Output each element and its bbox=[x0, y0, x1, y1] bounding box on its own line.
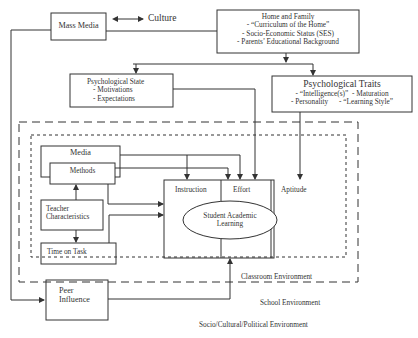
time-on-task-label: Time on Task bbox=[47, 248, 87, 256]
methods-label: Methods bbox=[50, 167, 115, 175]
aptitude-label: Aptitude bbox=[281, 186, 307, 194]
student-learning-label: Student Academic Learning bbox=[183, 212, 277, 229]
teacher-label: Teacher Characteristics bbox=[46, 205, 89, 222]
peer-line1: Peer bbox=[59, 286, 90, 295]
teacher-line2: Characteristics bbox=[46, 213, 89, 221]
home-family-box-text: Home and Family - “Curriculum of the Hom… bbox=[217, 13, 359, 47]
psych-state-box-text: Psychological State - Motivations - Expe… bbox=[87, 78, 144, 103]
home-family-item: - Parents’ Educational Background bbox=[217, 38, 359, 46]
instruction-label: Instruction bbox=[175, 186, 207, 194]
psych-state-item: - Expectations bbox=[87, 95, 144, 103]
peer-line2: Influence bbox=[59, 295, 90, 304]
socio-environment-label: Socio/Cultural/Political Environment bbox=[199, 321, 308, 329]
peer-label: Peer Influence bbox=[59, 286, 90, 305]
classroom-environment-label: Classroom Environment bbox=[241, 273, 312, 281]
school-environment-label: School Environment bbox=[260, 299, 320, 307]
psych-traits-box-text: Psychological Traits - “Intelligence(s)”… bbox=[272, 79, 412, 107]
mass-media-label: Mass Media bbox=[51, 21, 106, 30]
media-label: Media bbox=[41, 148, 120, 157]
psych-traits-row: - Personality - “Learning Style” bbox=[272, 98, 412, 106]
culture-label: Culture bbox=[148, 13, 177, 24]
student-learning-line2: Learning bbox=[183, 220, 277, 228]
effort-label: Effort bbox=[233, 186, 250, 194]
